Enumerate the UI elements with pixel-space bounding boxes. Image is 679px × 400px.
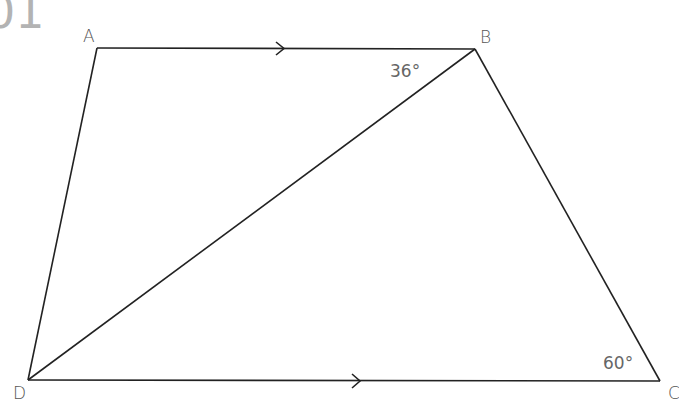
edge-dc <box>28 380 660 381</box>
vertex-label-c: C <box>668 383 679 400</box>
vertex-label-d: D <box>13 383 26 400</box>
angle-label-c: 60° <box>603 353 633 373</box>
header-number: 01 <box>0 0 45 39</box>
edge-ad <box>28 48 97 380</box>
vertex-labels: A B C D <box>13 26 679 400</box>
angle-labels: 36° 60° <box>390 61 633 373</box>
vertex-label-b: B <box>480 27 491 47</box>
edge-bc <box>475 49 660 381</box>
diagonal-bd <box>28 49 475 380</box>
trapezium-diagram: 01 A B C D 36° 60° <box>0 0 679 400</box>
angle-label-b: 36° <box>390 61 420 81</box>
vertex-label-a: A <box>83 26 95 46</box>
edge-ab <box>97 48 475 49</box>
edges <box>28 48 660 381</box>
parallel-marks <box>276 42 360 388</box>
